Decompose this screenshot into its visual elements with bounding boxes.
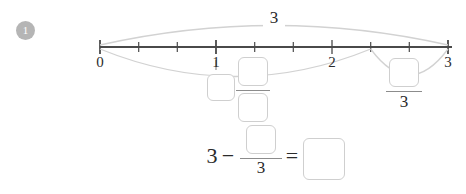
equation-denominator-label: 3 [250, 158, 272, 178]
whole-number-box[interactable] [207, 74, 235, 101]
equation-answer-box[interactable] [303, 138, 345, 180]
total-arc [100, 26, 448, 46]
right-denominator-label: 3 [393, 92, 415, 112]
axis-label-1: 1 [206, 54, 226, 71]
equation-whole: 3 [204, 143, 220, 169]
equation-numerator-box[interactable] [246, 125, 276, 154]
axis-label-3: 3 [438, 54, 458, 71]
mixed-fraction-bar [236, 90, 270, 91]
right-numerator-box[interactable] [389, 58, 419, 87]
total-arc-label: 3 [263, 8, 285, 28]
axis-label-0: 0 [90, 54, 110, 71]
mixed-numerator-box[interactable] [238, 57, 268, 86]
equals-sign: = [284, 143, 300, 169]
mixed-denominator-box[interactable] [238, 93, 268, 122]
minus-sign: − [220, 143, 236, 169]
axis-label-2: 2 [322, 54, 342, 71]
worksheet-canvas: 1 0 1 2 3 3 [0, 0, 466, 194]
